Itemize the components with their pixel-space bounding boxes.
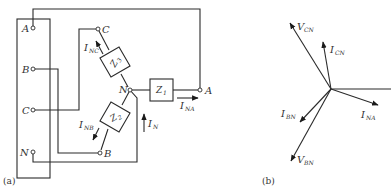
terminal-a-source [31,26,35,30]
terminal-n-source [31,150,35,154]
svg-text:NC: NC [88,47,99,54]
label-v-bn: V BN [297,154,314,166]
arrow-i-nb [93,128,99,140]
source-label-b: B [21,64,29,75]
load-label-a: A [204,85,212,96]
terminal-c-source [31,108,35,112]
label-i-na-phasor: I NA [360,109,376,121]
svg-text:NB: NB [83,124,94,131]
source-terminal-b: B [21,64,35,75]
svg-text:BN: BN [285,113,296,120]
terminal-b-load [98,151,102,155]
label-i-cn: I CN [329,44,346,56]
terminal-a-load [198,88,202,92]
phasor-i-na [331,89,378,105]
circuit-panel-a: A B C N C Z 3 [3,9,212,186]
load-label-c: C [102,24,110,35]
impedance-z2: Z 2 [100,102,130,132]
caption-b: (b) [262,176,275,186]
label-i-n: I N [147,118,159,130]
caption-a: (a) [3,176,15,186]
load-label-b: B [103,148,111,159]
phasor-panel-b: V CN I CN I NA I BN V BN (b) [262,21,391,186]
svg-text:CN: CN [304,26,315,33]
svg-text:1: 1 [163,89,167,96]
terminal-b-source [31,67,35,71]
svg-text:NA: NA [184,105,195,112]
svg-text:BN: BN [303,159,314,166]
source-label-n: N [19,147,30,158]
terminal-c-load [96,27,100,31]
three-phase-circuit-figure: A B C N C Z 3 [0,0,391,187]
source-label-c: C [22,105,30,116]
label-i-nb: I NB [78,119,94,131]
source-label-a: A [21,23,29,34]
wire-z2-to-b [101,129,108,150]
label-v-cn: V CN [297,21,315,33]
source-terminal-c: C [22,105,35,116]
label-i-nc: I NC [83,42,99,54]
load-label-n: N [118,84,129,95]
label-i-bn: I BN [280,108,296,120]
svg-text:CN: CN [335,49,346,56]
svg-text:Z: Z [155,85,163,95]
impedance-z3: Z 3 [100,47,130,77]
neutral-node [128,88,132,92]
wire-phase-b [35,69,98,153]
label-i-na: I NA [179,100,195,112]
svg-text:NA: NA [365,114,376,121]
svg-text:N: N [152,123,159,130]
phasor-v-bn [291,89,331,161]
